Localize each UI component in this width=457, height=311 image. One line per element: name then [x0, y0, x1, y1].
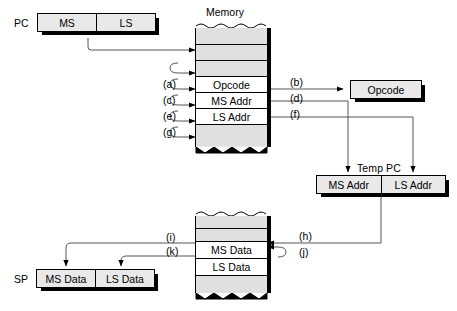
sp-field-ms-data: MS Data	[37, 270, 95, 287]
step-label-e: (e)	[163, 111, 176, 122]
sp-register[interactable]: MS Data LS Data	[36, 269, 155, 288]
memory-row-opcode: Opcode	[196, 77, 267, 93]
diagram-canvas: PC MS LS Memory Opcode MS Addr LS Addr O…	[0, 0, 457, 311]
pc-field-ls: LS	[96, 14, 155, 31]
memory-row-ls-addr: LS Addr	[196, 109, 267, 125]
memory-title: Memory	[206, 6, 244, 18]
step-label-j: (j)	[299, 247, 309, 258]
memory-row	[196, 125, 267, 146]
step-label-b: (b)	[290, 77, 303, 88]
memory2-row-ls-data: LS Data	[196, 259, 267, 276]
connector-pc-to-memory	[88, 38, 195, 50]
sp-label: SP	[14, 274, 28, 285]
step-label-c: (c)	[163, 95, 176, 106]
pc-register[interactable]: MS LS	[37, 13, 156, 32]
step-label-k: (k)	[166, 246, 179, 257]
temp-pc-field-ls-addr: LS Addr	[381, 176, 446, 193]
memory-bottom-block: MS Data LS Data	[195, 216, 268, 293]
memory-row	[196, 28, 267, 45]
memory-row	[196, 45, 267, 61]
sp-field-ls-data: LS Data	[95, 270, 154, 287]
step-label-d: (d)	[290, 93, 303, 104]
memory2-row	[196, 276, 267, 293]
step-label-h: (h)	[299, 231, 312, 242]
temp-pc-register[interactable]: MS Addr LS Addr	[316, 175, 446, 194]
memory2-row	[196, 229, 267, 242]
opcode-field: Opcode	[351, 81, 421, 98]
connector-i-ms-data	[66, 243, 208, 266]
connector-stub-1	[170, 63, 195, 73]
temp-pc-field-ms-addr: MS Addr	[317, 176, 381, 193]
memory-row	[196, 61, 267, 77]
connector-d-ms-addr	[268, 101, 348, 172]
memory2-row	[196, 216, 267, 229]
step-label-f: (f)	[290, 109, 300, 120]
memory-row-ms-addr: MS Addr	[196, 93, 267, 109]
step-label-i: (i)	[166, 232, 176, 243]
memory-top-block: Opcode MS Addr LS Addr	[195, 28, 268, 147]
memory2-row-ms-data: MS Data	[196, 242, 267, 259]
connector-h-temp-pc	[268, 194, 381, 243]
pc-field-ms: MS	[38, 14, 96, 31]
opcode-register[interactable]: Opcode	[350, 80, 422, 99]
step-label-g: (g)	[163, 127, 176, 138]
pc-label: PC	[14, 18, 29, 29]
step-label-a: (a)	[163, 79, 176, 90]
memory-bottom-zigzag	[196, 147, 267, 153]
memory2-bottom-zigzag	[196, 293, 267, 299]
temp-pc-label: Temp PC	[357, 163, 401, 174]
